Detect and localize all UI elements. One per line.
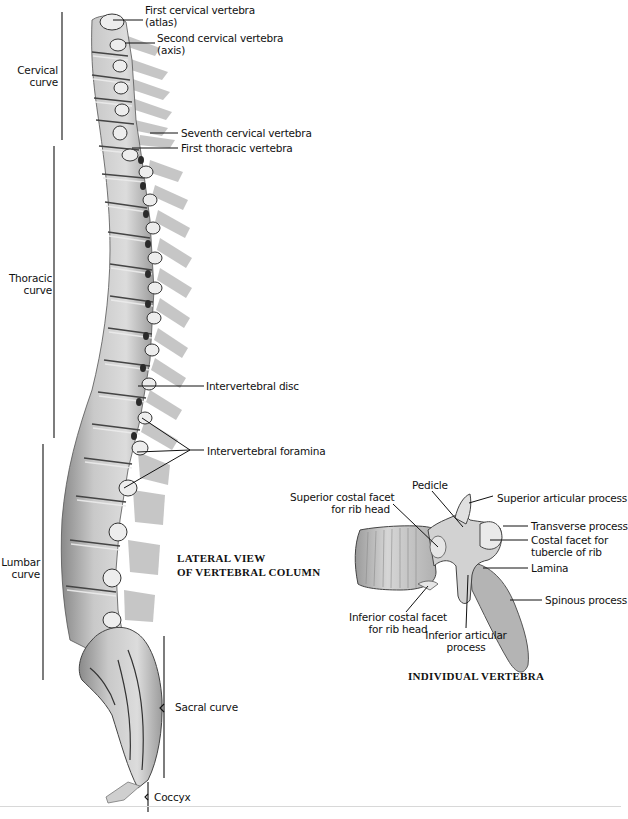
first-cervical-vertebra-label: First cervical vertebra (atlas): [145, 4, 255, 28]
first-cervical-line1: First cervical vertebra: [145, 4, 255, 16]
costal-facet-line2: tubercle of rib: [531, 546, 608, 558]
cervical-curve-line2: curve: [12, 76, 58, 88]
inferior-articular-process-label: Inferior articular process: [424, 629, 508, 653]
bottom-divider: [0, 806, 621, 807]
lamina-label: Lamina: [531, 562, 568, 574]
seventh-cervical-vertebra-label: Seventh cervical vertebra: [181, 127, 312, 139]
sacrum: [79, 627, 162, 788]
coccyx-bone: [106, 782, 140, 803]
coccyx-label: Coccyx: [154, 791, 191, 803]
costal-facet-line1: Costal facet for: [531, 534, 608, 546]
pedicle-label: Pedicle: [412, 479, 448, 491]
second-cervical-line1: Second cervical vertebra: [157, 32, 283, 44]
lateral-view-caption-line2: OF VERTEBRAL COLUMN: [177, 565, 320, 579]
inferior-costal-facet-line1: Inferior costal facet: [346, 611, 450, 623]
thoracic-curve-line1: Thoracic: [4, 272, 52, 284]
spinous-process-label: Spinous process: [545, 594, 627, 606]
thoracic-curve-line2: curve: [4, 284, 52, 296]
inferior-articular-line2: process: [424, 641, 508, 653]
cervical-curve-label: Cervical curve: [12, 64, 58, 88]
sacral-curve-label: Sacral curve: [175, 701, 238, 713]
superior-costal-facet-label: Superior costal facet for rib head: [290, 491, 390, 515]
intervertebral-disc-label: Intervertebral disc: [206, 380, 299, 392]
transverse-process-label: Transverse process: [531, 520, 628, 532]
costal-facet-tubercle-label: Costal facet for tubercle of rib: [531, 534, 608, 558]
lumbar-curve-line1: Lumbar: [0, 556, 40, 568]
thoracic-curve-label: Thoracic curve: [4, 272, 52, 296]
second-cervical-line2: (axis): [157, 44, 283, 56]
lateral-view-caption: LATERAL VIEW OF VERTEBRAL COLUMN: [177, 551, 320, 579]
lumbar-curve-line2: curve: [0, 568, 40, 580]
first-thoracic-vertebra-label: First thoracic vertebra: [181, 142, 293, 154]
lateral-view-caption-line1: LATERAL VIEW: [177, 551, 320, 565]
superior-costal-facet-line2: for rib head: [290, 503, 390, 515]
superior-costal-facet-line1: Superior costal facet: [290, 491, 390, 503]
second-cervical-vertebra-label: Second cervical vertebra (axis): [157, 32, 283, 56]
individual-vertebra-caption: INDIVIDUAL VERTEBRA: [408, 669, 544, 683]
cervical-curve-line1: Cervical: [12, 64, 58, 76]
intervertebral-foramina-label: Intervertebral foramina: [207, 445, 325, 457]
first-cervical-line2: (atlas): [145, 16, 255, 28]
inferior-articular-line1: Inferior articular: [424, 629, 508, 641]
superior-articular-process-label: Superior articular process: [497, 492, 627, 504]
lumbar-curve-label: Lumbar curve: [0, 556, 40, 580]
